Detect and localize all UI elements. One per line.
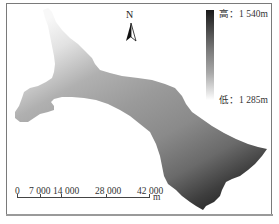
- scale-tick: [106, 194, 107, 198]
- elevation-legend-bar: [206, 10, 214, 100]
- scale-tick-label-3: 28 000: [95, 186, 121, 197]
- scale-tick: [149, 194, 150, 198]
- north-arrow-icon: [124, 11, 138, 43]
- scale-tick: [17, 194, 18, 198]
- scale-unit: m: [153, 192, 160, 202]
- scale-bar: [17, 197, 150, 198]
- study-area-polygon: [15, 8, 267, 210]
- scale-tick: [61, 194, 62, 198]
- legend-high-label: 高：1 540m: [219, 9, 268, 20]
- legend-low-label: 低：1 285m: [219, 95, 268, 106]
- scale-tick-label-2: 14 000: [53, 186, 79, 197]
- scale-tick: [40, 194, 41, 198]
